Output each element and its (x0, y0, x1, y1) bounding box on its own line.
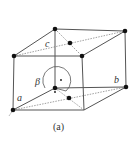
label-a: a (17, 92, 22, 103)
atom-corner (11, 108, 16, 113)
atom-corner (123, 29, 128, 34)
atom-corner-origin (53, 86, 58, 91)
atom-corner (124, 85, 129, 90)
angle-marker-dot (54, 91, 56, 93)
angle-marker-dot (60, 79, 62, 81)
atom-corner (12, 54, 17, 59)
atom-face-center-top (68, 41, 73, 46)
unit-cell-diagram: c β b a (a) (0, 0, 134, 144)
atom-face-center-bottom (67, 96, 72, 101)
label-c: c (45, 38, 50, 49)
atom-corner (53, 27, 58, 32)
atom-corner (80, 54, 85, 59)
label-b: b (114, 74, 119, 85)
label-beta: β (34, 76, 40, 87)
figure-caption: (a) (53, 121, 64, 133)
